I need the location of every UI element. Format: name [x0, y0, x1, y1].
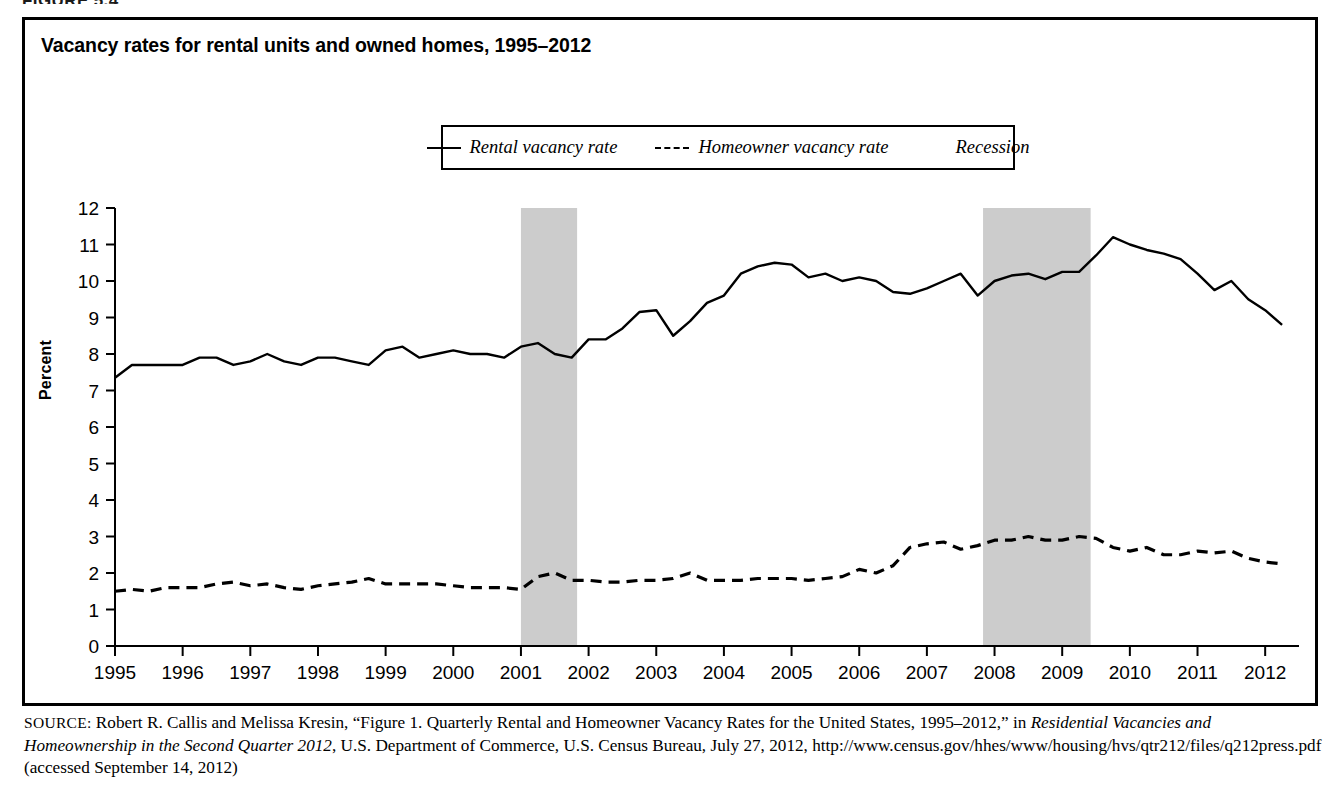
- y-tick-label: 1: [88, 600, 99, 621]
- x-tick-label: 1996: [162, 662, 204, 683]
- y-tick-label: 4: [88, 490, 99, 511]
- y-tick-label: 8: [88, 344, 99, 365]
- x-tick-label: 1998: [297, 662, 339, 683]
- source-text-2: , U.S. Department of Commerce, U.S. Cens…: [332, 736, 974, 755]
- y-tick-label: 7: [88, 381, 99, 402]
- x-tick-label: 1995: [94, 662, 136, 683]
- y-tick-label: 6: [88, 417, 99, 438]
- x-tick-label: 2002: [567, 662, 609, 683]
- x-tick-label: 2006: [838, 662, 880, 683]
- source-note: SOURCE: Robert R. Callis and Melissa Kre…: [24, 712, 1324, 780]
- vacancy-rates-line-chart: 0123456789101112199519961997199819992000…: [25, 20, 1321, 709]
- figure-root: FIGURE 5.4 Vacancy rates for rental unit…: [0, 0, 1343, 800]
- figure-kicker: FIGURE 5.4: [22, 0, 119, 4]
- x-tick-label: 2008: [973, 662, 1015, 683]
- rental-vacancy-line: [115, 237, 1282, 378]
- y-tick-label: 0: [88, 636, 99, 657]
- x-tick-label: 2010: [1109, 662, 1151, 683]
- y-tick-label: 10: [78, 271, 99, 292]
- x-tick-label: 2000: [432, 662, 474, 683]
- x-tick-label: 1999: [364, 662, 406, 683]
- recession-band: [983, 208, 1091, 646]
- x-tick-label: 2009: [1041, 662, 1083, 683]
- figure-frame: Vacancy rates for rental units and owned…: [22, 17, 1318, 706]
- source-text-1: Robert R. Callis and Melissa Kresin, “Fi…: [92, 713, 1031, 732]
- x-tick-label: 1997: [229, 662, 271, 683]
- chart-plot-area: 0123456789101112199519961997199819992000…: [25, 20, 1321, 709]
- recession-band: [521, 208, 577, 646]
- source-kicker: SOURCE:: [24, 714, 92, 731]
- y-tick-label: 3: [88, 527, 99, 548]
- y-tick-label: 2: [88, 563, 99, 584]
- y-tick-label: 9: [88, 308, 99, 329]
- x-tick-label: 2005: [770, 662, 812, 683]
- x-tick-label: 2007: [906, 662, 948, 683]
- x-tick-label: 2004: [703, 662, 746, 683]
- x-tick-label: 2003: [635, 662, 677, 683]
- y-tick-label: 5: [88, 454, 99, 475]
- homeowner-vacancy-line: [115, 537, 1282, 592]
- x-tick-label: 2001: [500, 662, 542, 683]
- x-tick-label: 2012: [1244, 662, 1286, 683]
- y-tick-label: 11: [79, 235, 99, 256]
- y-tick-label: 12: [78, 198, 99, 219]
- x-tick-label: 2011: [1177, 662, 1218, 683]
